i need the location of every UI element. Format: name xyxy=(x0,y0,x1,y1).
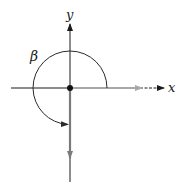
angle-beta-label: β xyxy=(29,48,38,64)
y-axis-label: y xyxy=(65,7,74,22)
x-axis-label: x xyxy=(168,80,176,95)
origin-point xyxy=(67,85,73,91)
angle-diagram: y x β xyxy=(0,0,187,188)
